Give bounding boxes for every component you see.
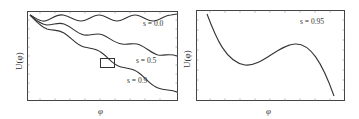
left-x-axis-label: φ xyxy=(98,106,103,116)
zoom-box xyxy=(101,59,115,68)
label-s-0.9: s = 0.9 xyxy=(127,76,148,85)
figure: s = 0.0 s = 0.5 s = 0.9 U(φ) φ s = 0.95 … xyxy=(0,0,359,119)
right-x-axis-label: φ xyxy=(266,106,271,116)
label-s-0.95: s = 0.95 xyxy=(300,17,324,26)
curve-s-0.95 xyxy=(207,14,334,96)
right-y-axis-label: U(φ) xyxy=(182,50,192,68)
label-s-0.5: s = 0.5 xyxy=(136,56,157,65)
left-y-axis-label: U(φ) xyxy=(14,52,24,70)
left-panel: s = 0.0 s = 0.5 s = 0.9 U(φ) φ xyxy=(14,12,178,117)
label-s-0.0: s = 0.0 xyxy=(143,19,164,28)
right-panel: s = 0.95 U(φ) φ xyxy=(182,11,345,117)
